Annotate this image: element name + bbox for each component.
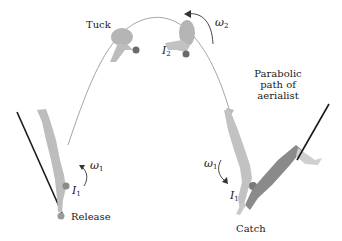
path-label-line2: path of (243, 79, 313, 90)
diagram-canvas (0, 0, 342, 241)
parabolic-path-label: Parabolic path of aerialist (243, 68, 313, 101)
omega2-arrowhead (184, 10, 191, 18)
I2-sub: 2 (166, 50, 170, 58)
path-label-line1: Parabolic (243, 68, 313, 79)
omega1-left-symbol: ω1 (90, 160, 103, 175)
omega1-left-arrow (82, 167, 87, 186)
omega1-right-arrow (219, 160, 224, 180)
omega1-right-arrowhead (222, 177, 228, 184)
tuck-figure-1 (110, 28, 140, 62)
I1-left-sub: 1 (76, 190, 80, 198)
omega2-symbol: ω2 (215, 17, 228, 32)
I2-symbol: I2 (162, 45, 171, 60)
tuck-label: Tuck (86, 19, 111, 30)
omega2-sub: 2 (224, 22, 228, 30)
release-label: Release (71, 211, 111, 222)
aerialist-head-left (63, 183, 70, 190)
path-label-line3: aerialist (243, 90, 313, 101)
I1-right-symbol: I1 (230, 190, 239, 205)
parabolic-path (68, 17, 230, 145)
omega2-base: ω (215, 16, 224, 29)
right-trapeze-bar (297, 104, 329, 160)
omega1-right-sub: 1 (213, 163, 217, 171)
I1-right-sub: 1 (234, 195, 238, 203)
catch-label: Catch (236, 223, 266, 234)
I1-left-symbol: I1 (72, 185, 81, 200)
trapeze-diagram: Tuck I2 ω2 Parabolic path of aerialist ω… (0, 0, 342, 241)
aerialist-release-figure (37, 109, 66, 212)
omega1-right-symbol: ω1 (204, 158, 217, 173)
release-point (58, 213, 65, 220)
omega1-left-base: ω (90, 159, 99, 172)
omega1-right-base: ω (204, 157, 213, 170)
omega1-left-sub: 1 (99, 165, 103, 173)
